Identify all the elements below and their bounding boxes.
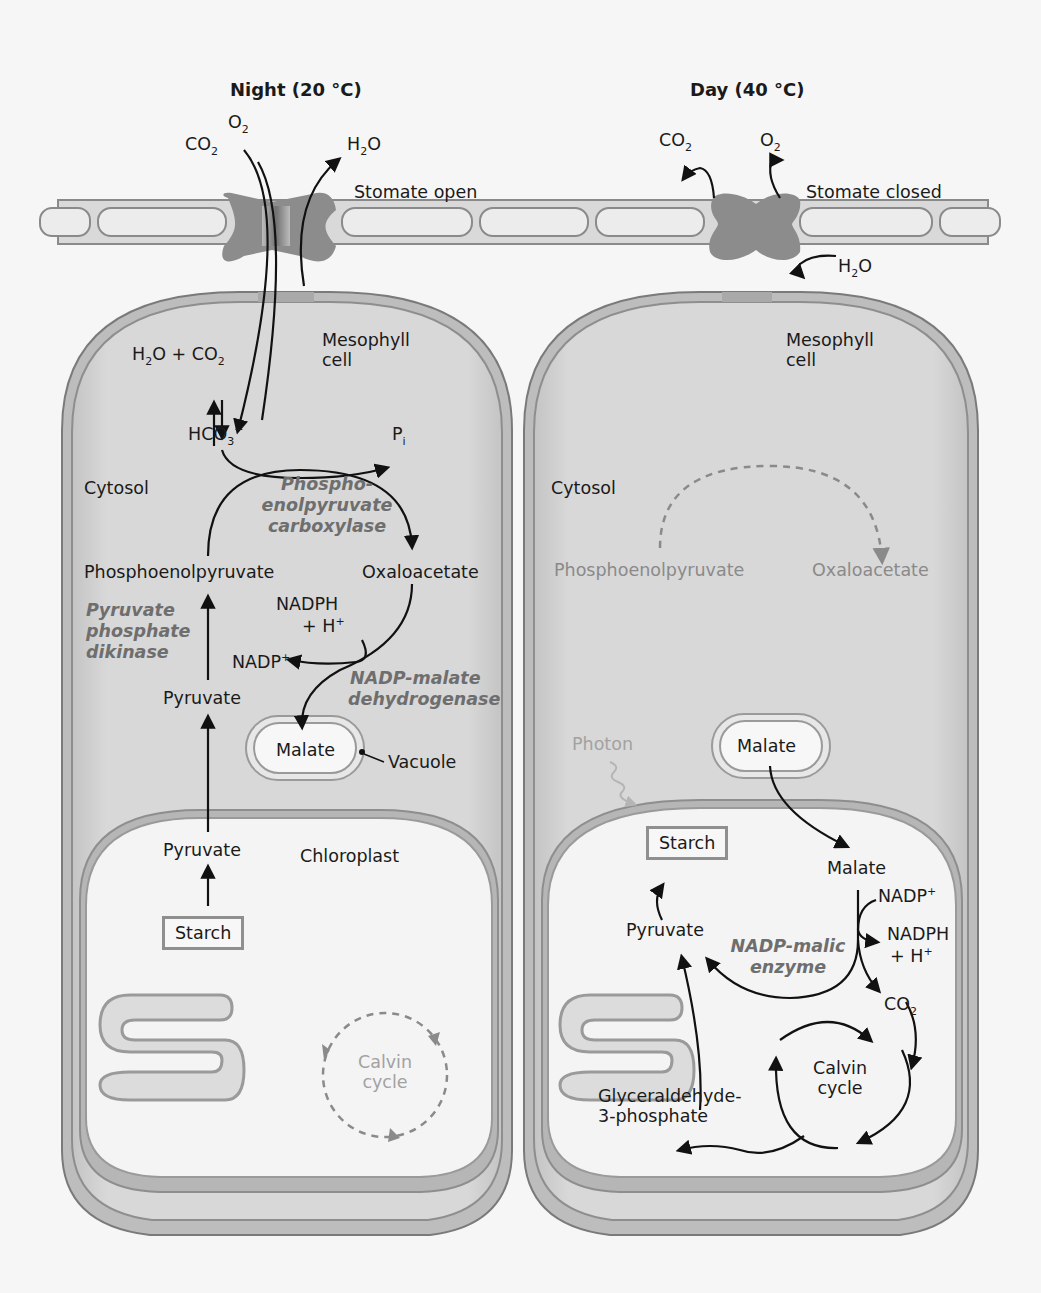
day-h2o-label: H2O: [838, 256, 872, 280]
stomate-closed-label: Stomate closed: [806, 182, 942, 202]
enzyme-nadp-malic: NADP-malicenzyme: [718, 936, 858, 978]
night-starch: Starch: [162, 916, 244, 950]
enzyme-pep-carboxylase: Phospho-enolpyruvatecarboxylase: [252, 474, 402, 537]
day-phosphoenolpyruvate: Phosphoenolpyruvate: [554, 560, 744, 580]
night-nadph: NADPH: [276, 594, 338, 614]
night-pyruvate-cytosol: Pyruvate: [163, 688, 241, 708]
g3p-label: Glyceraldehyde-3-phosphate: [598, 1086, 741, 1126]
day-pyruvate: Pyruvate: [626, 920, 704, 940]
day-mesophyll-cell: [524, 292, 978, 1235]
day-mesophyll-label: Mesophyllcell: [786, 330, 874, 370]
day-starch: Starch: [646, 826, 728, 860]
day-cytosol-label: Cytosol: [551, 478, 616, 498]
night-cytosol-label: Cytosol: [84, 478, 149, 498]
day-title: Day (40 °C): [690, 80, 805, 101]
day-h-plus: + H+: [890, 946, 933, 966]
night-chloroplast-label: Chloroplast: [300, 846, 399, 866]
night-h-plus: + H+: [302, 616, 345, 636]
night-calvin-cycle: Calvincycle: [355, 1052, 415, 1092]
day-o2-label: O2: [760, 130, 781, 154]
night-nadp: NADP+: [232, 652, 290, 672]
epidermis: [40, 200, 1000, 244]
night-co2-label: CO2: [185, 134, 218, 158]
day-oxaloacetate: Oxaloacetate: [812, 560, 929, 580]
night-malate: Malate: [276, 740, 335, 760]
night-o2-label: O2: [228, 112, 249, 136]
stomate-open-label: Stomate open: [354, 182, 477, 202]
night-h2o-label: H2O: [347, 134, 381, 158]
day-malate-vacuole: Malate: [737, 736, 796, 756]
stomate-closed: [709, 194, 800, 260]
night-mesophyll-label: Mesophyllcell: [322, 330, 410, 370]
night-hco3: HCO3−: [188, 424, 243, 448]
enzyme-ppdk: Pyruvatephosphatedikinase: [86, 600, 190, 663]
night-oxaloacetate: Oxaloacetate: [362, 562, 479, 582]
night-title: Night (20 °C): [230, 80, 362, 101]
night-vacuole-label: Vacuole: [388, 752, 456, 772]
day-calvin-cycle: Calvincycle: [808, 1058, 872, 1098]
day-nadph: NADPH: [887, 924, 949, 944]
day-malate-chloroplast: Malate: [827, 858, 886, 878]
day-co2-label: CO2: [659, 130, 692, 154]
night-h2o-co2: H2O + CO2: [132, 344, 225, 368]
enzyme-nadp-malate-dehydrogenase: NADP-malatedehydrogenase: [348, 668, 500, 710]
night-pyruvate-chloroplast: Pyruvate: [163, 840, 241, 860]
night-pi: Pi: [392, 424, 406, 448]
day-co2-chloroplast: CO2: [884, 994, 917, 1018]
night-phosphoenolpyruvate: Phosphoenolpyruvate: [84, 562, 274, 582]
day-nadp: NADP+: [878, 886, 936, 906]
stomate-open: [222, 193, 336, 262]
photon-label: Photon: [572, 734, 633, 754]
